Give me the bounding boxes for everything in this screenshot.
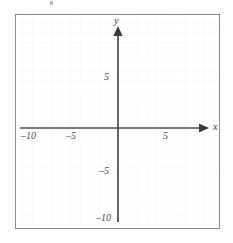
y-axis-label: y bbox=[114, 16, 119, 26]
coordinate-grid-figure: –10 –5 5 5 –5 –10 x y bbox=[0, 0, 233, 243]
scan-artifact-speck bbox=[50, 1, 53, 5]
x-tick-label-pos5: 5 bbox=[163, 131, 168, 141]
y-tick-label-pos5: 5 bbox=[104, 72, 109, 82]
figure-border bbox=[15, 14, 220, 229]
y-tick-label-neg5: –5 bbox=[99, 166, 109, 176]
x-tick-label-neg10: –10 bbox=[21, 131, 36, 141]
x-axis-label: x bbox=[213, 122, 218, 132]
y-tick-label-neg10: –10 bbox=[96, 213, 111, 223]
x-tick-label-neg5: –5 bbox=[66, 131, 76, 141]
